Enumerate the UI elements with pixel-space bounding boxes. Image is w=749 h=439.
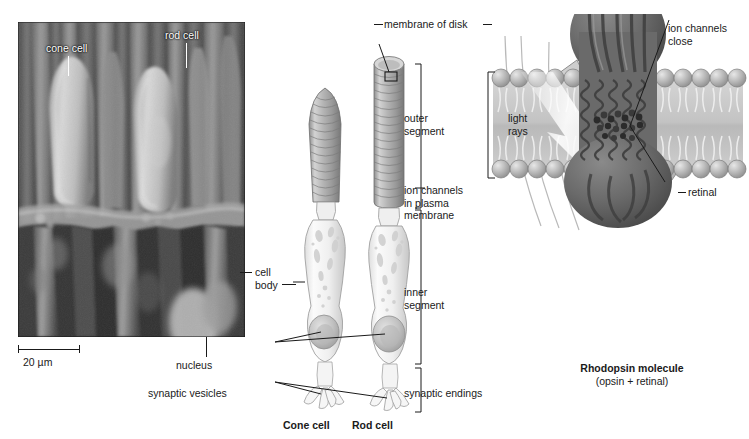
membrane-of-disk-leader-left [374, 24, 383, 25]
label-synaptic-endings: synaptic endings [404, 387, 482, 400]
cone-cell-leader-line [68, 56, 69, 76]
micrograph-label-cone-cell: cone cell [46, 42, 87, 55]
electron-micrograph [18, 22, 245, 337]
caption-rod-cell: Rod cell [352, 419, 393, 432]
micrograph-label-rod-cell: rod cell [165, 29, 199, 42]
label-nucleus: nucleus [176, 359, 212, 372]
scale-bar-label: 20 µm [23, 356, 52, 369]
label-ion-channels-close: ion channels close [668, 22, 727, 47]
nucleus-leader-to-micrograph [206, 337, 207, 357]
scale-bar-cap-right [79, 345, 80, 353]
caption-rhodopsin-molecule: Rhodopsin molecule [556, 362, 708, 375]
cell-body-leader-to-micrograph [240, 272, 252, 273]
label-cell-body: cell body [255, 266, 278, 291]
label-outer-segment: outer segment [404, 112, 444, 137]
label-ion-channels-plasma-membrane: ion channels in plasma membrane [404, 184, 463, 222]
scale-bar-line [18, 349, 80, 350]
label-inner-segment: inner segment [404, 286, 444, 311]
label-synaptic-vesicles: synaptic vesicles [148, 387, 227, 400]
membrane-of-disk-leader-right [483, 24, 492, 25]
label-light-rays: light rays [508, 112, 528, 137]
caption-rhodopsin-components: (opsin + retinal) [556, 375, 708, 388]
rhodopsin-membrane-diagram: cascade of reactions [487, 14, 749, 414]
rod-cell-leader-line [186, 43, 187, 68]
scale-bar [18, 345, 80, 353]
label-membrane-of-disk: membrane of disk [384, 18, 467, 31]
cell-body-leader-to-cell [282, 284, 296, 285]
scale-bar-cap-left [18, 345, 19, 353]
figure-root: cone cell rod cell 20 µm [0, 0, 749, 439]
label-retinal: retinal [688, 186, 717, 199]
retinal-leader-dash [678, 192, 686, 193]
caption-cone-cell: Cone cell [283, 419, 330, 432]
